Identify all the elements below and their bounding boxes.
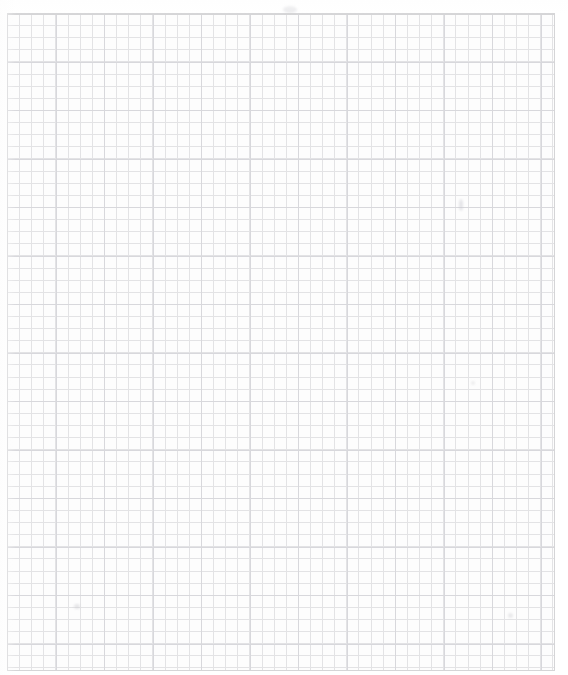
scanned-page [0, 0, 568, 675]
smudge-top-center [283, 6, 297, 13]
grid-paper-frame [7, 13, 555, 671]
grid-minor-lines [7, 13, 555, 671]
